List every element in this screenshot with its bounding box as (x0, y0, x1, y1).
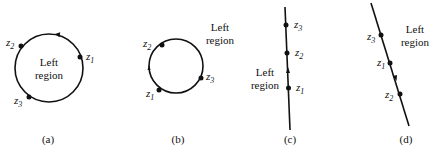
point-z1 (286, 86, 291, 91)
label-z2: z2 (384, 88, 393, 103)
label-z1: z1 (145, 87, 154, 102)
region-label-line2: region (251, 79, 280, 91)
region-label-line1: Left (40, 56, 58, 68)
circle-contour (149, 39, 203, 93)
label-z2: z2 (5, 36, 14, 51)
mobius-orientation-diagram: z1 z2 z3 Left region (a) z2 z3 z1 Left r… (0, 0, 436, 156)
figure-a: z1 z2 z3 Left region (a) (5, 32, 94, 146)
point-z2 (19, 44, 24, 49)
region-label-line1: Left (211, 21, 229, 33)
arrow-icon (286, 67, 290, 73)
caption-d: (d) (400, 133, 413, 146)
point-z1 (388, 61, 393, 66)
region-label-line1: Left (406, 23, 424, 35)
figure-b: z2 z3 z1 Left region (b) (142, 21, 235, 146)
point-z1 (78, 55, 83, 60)
point-z3 (199, 76, 204, 81)
point-z1 (157, 88, 162, 93)
point-z3 (284, 23, 289, 28)
point-z2 (160, 43, 165, 48)
region-label-line2: region (206, 34, 235, 46)
label-z3: z3 (205, 70, 214, 85)
label-z1: z1 (85, 50, 94, 65)
label-z3: z3 (293, 18, 302, 33)
region-label-line2: region (35, 69, 64, 81)
label-z3: z3 (366, 30, 375, 45)
point-z3 (27, 95, 32, 100)
point-z3 (379, 33, 384, 38)
circle-contour (15, 34, 83, 102)
label-z2: z2 (142, 37, 151, 52)
region-label-line1: Left (256, 66, 274, 78)
label-z1: z1 (295, 81, 304, 96)
point-z2 (285, 51, 290, 56)
caption-c: (c) (284, 133, 297, 146)
arrow-icon (148, 65, 151, 70)
figure-d: z3 z1 z2 Left region (d) (366, 3, 430, 146)
label-z3: z3 (13, 94, 22, 109)
point-z2 (398, 92, 403, 97)
region-label-line2: region (401, 36, 430, 48)
label-z2: z2 (294, 46, 303, 61)
caption-a: (a) (42, 133, 55, 146)
label-z1: z1 (376, 56, 385, 71)
caption-b: (b) (172, 133, 185, 146)
figure-c: z3 z2 z1 Left region (c) (251, 7, 304, 146)
